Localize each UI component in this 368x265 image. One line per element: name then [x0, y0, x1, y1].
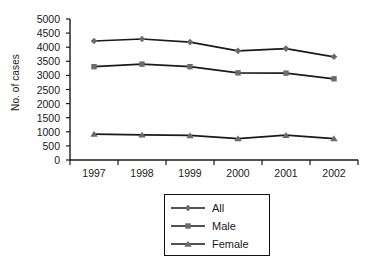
series-female — [90, 131, 337, 141]
data-point-marker — [283, 45, 290, 52]
legend-item-female[interactable]: Female — [165, 235, 269, 253]
series-line — [94, 64, 334, 79]
plot-area — [70, 19, 358, 160]
legend-key-triangle-icon — [170, 237, 206, 251]
line-chart-figure: No. of cases 500045004000350030002500200… — [0, 0, 368, 265]
series-all — [91, 36, 338, 60]
legend-key-diamond-icon — [170, 201, 206, 215]
x-tick-label: 1997 — [70, 166, 118, 180]
data-point-marker — [139, 36, 146, 43]
data-point-marker — [235, 48, 242, 55]
legend-item-all[interactable]: All — [165, 199, 269, 217]
legend-key-square-icon — [170, 219, 206, 233]
data-point-marker — [187, 64, 192, 69]
data-point-marker — [91, 64, 96, 69]
x-tick-label: 2001 — [262, 166, 310, 180]
data-point-marker — [185, 205, 192, 212]
legend-label: Female — [206, 237, 249, 251]
legend-label: All — [206, 201, 224, 215]
x-tick-label: 2000 — [214, 166, 262, 180]
data-point-marker — [283, 70, 288, 75]
series-line — [94, 134, 334, 139]
data-point-marker — [185, 223, 190, 228]
x-tick-label: 2002 — [310, 166, 358, 180]
data-point-marker — [139, 61, 144, 66]
data-point-marker — [91, 38, 98, 45]
data-point-marker — [331, 76, 336, 81]
x-tick-label: 1999 — [166, 166, 214, 180]
series-line — [94, 39, 334, 57]
data-point-marker — [235, 70, 240, 75]
chart-legend: AllMaleFemale — [164, 194, 270, 256]
data-point-marker — [187, 39, 194, 46]
x-axis-tick-labels: 199719981999200020012002 — [70, 166, 358, 182]
series-male — [91, 61, 336, 81]
data-point-marker — [331, 53, 338, 60]
legend-label: Male — [206, 219, 236, 233]
series-layer — [70, 19, 358, 160]
legend-item-male[interactable]: Male — [165, 217, 269, 235]
x-tick-label: 1998 — [118, 166, 166, 180]
